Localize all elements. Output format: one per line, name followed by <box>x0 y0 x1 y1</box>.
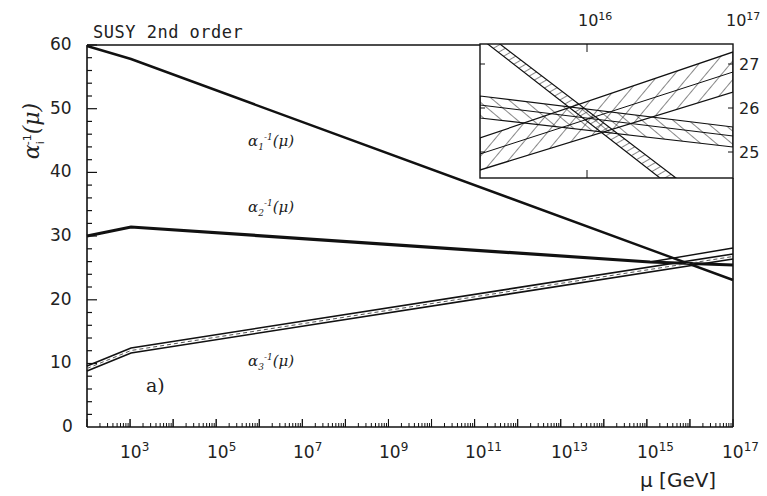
x-tick-1e11: 1011 <box>465 440 502 462</box>
x-axis-label: μ [GeV] <box>640 468 716 492</box>
chart-canvas <box>0 0 767 496</box>
y-tick-20: 20 <box>50 289 72 309</box>
x-tick-1e15: 1015 <box>637 440 674 462</box>
x-tick-1e13: 1013 <box>551 440 588 462</box>
x-tick-1e5: 105 <box>207 440 236 462</box>
inset-x-tick-1e16: 1016 <box>578 10 612 30</box>
y-tick-60: 60 <box>50 34 72 54</box>
curve-alpha2 <box>87 227 733 265</box>
y-tick-0: 0 <box>62 416 73 436</box>
inset-y-tick-27: 27 <box>739 55 759 74</box>
y-tick-50: 50 <box>50 98 72 118</box>
curve-label-alpha3: α3-1(μ) <box>248 352 294 372</box>
y-tick-30: 30 <box>50 225 72 245</box>
inset-x-tick-1e17: 1017 <box>726 10 760 30</box>
inset-plot <box>480 38 733 178</box>
chart-title: SUSY 2nd order <box>93 22 243 42</box>
x-tick-1e9: 109 <box>379 440 408 462</box>
curve-label-alpha2: α2-1(μ) <box>248 198 294 218</box>
x-tick-1e17: 1017 <box>722 440 759 462</box>
y-tick-10: 10 <box>50 352 72 372</box>
x-tick-1e7: 107 <box>293 440 322 462</box>
inset-y-tick-25: 25 <box>739 143 759 162</box>
curve-label-alpha1: α1-1(μ) <box>248 132 294 152</box>
curve-alpha3 <box>87 254 733 371</box>
panel-label: a) <box>146 374 165 396</box>
y-axis-label: αi-1(μ) <box>19 69 47 159</box>
x-ticks <box>87 419 733 427</box>
inset-y-tick-26: 26 <box>739 99 759 118</box>
x-tick-1e3: 103 <box>120 440 149 462</box>
y-ticks <box>87 45 97 414</box>
y-tick-40: 40 <box>50 161 72 181</box>
